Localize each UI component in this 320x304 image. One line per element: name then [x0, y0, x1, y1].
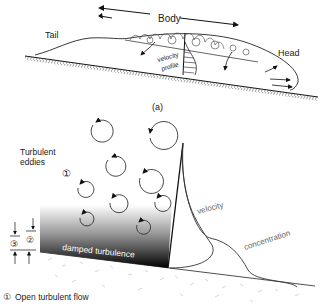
body-arrow-right: [180, 18, 238, 25]
concentration-curve: [182, 150, 297, 287]
tail-label: Tail: [45, 30, 59, 40]
body-label: Body: [158, 13, 181, 24]
velocity-profile-label-2: profile: [160, 61, 180, 73]
turbidity-current-diagram: Body Tail Head: [0, 0, 320, 304]
zone-3-marker: ③: [10, 239, 18, 249]
zone-1-marker: ①: [62, 168, 71, 179]
legend-marker-1: ①: [3, 292, 11, 302]
arrow-head-left-icon: [98, 5, 104, 11]
legend-text-1: Open turbulent flow: [15, 292, 90, 302]
velocity-label: velocity: [196, 200, 224, 216]
head-label: Head: [278, 48, 300, 58]
turbulent-eddies-label-2: eddies: [20, 157, 45, 167]
current-outline: [35, 34, 298, 90]
panel-b: damped turbulence velocity concentration…: [0, 120, 315, 304]
panel-a: Body Tail Head: [25, 5, 318, 112]
turbulent-eddies-label-1: Turbulent: [20, 147, 56, 157]
caption-a: (a): [152, 102, 163, 112]
concentration-label: concentration: [243, 229, 291, 252]
zone-2-marker: ②: [26, 235, 34, 245]
